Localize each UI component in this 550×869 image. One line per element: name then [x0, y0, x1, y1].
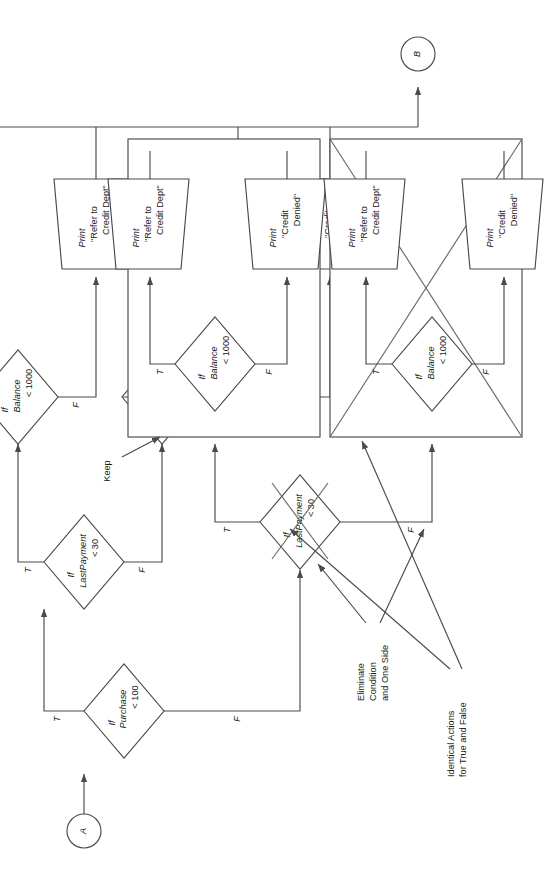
- decision-lastpayment-top-line3: < 30: [90, 539, 100, 557]
- process-denied-2-line2: "Credit: [280, 210, 290, 238]
- decision-lastpayment-top-line1: If: [66, 571, 76, 578]
- edge-bal-t1-false: [58, 277, 96, 397]
- process-refer-3-line1: Print: [347, 228, 357, 247]
- connector-a-label: A: [78, 828, 88, 835]
- edge-lp-top-false: [124, 444, 162, 562]
- rotated-artboard: A If Purchase < 100 T F If LastPayment <…: [0, 0, 550, 869]
- annotation-identical-line1: Identical Actions: [446, 710, 456, 777]
- process-refer-3: Print "Refer to Credit Dept": [324, 179, 405, 269]
- decision-balance-t1-line2: Balance: [12, 379, 22, 412]
- process-refer-1-line2: "Refer to: [89, 206, 99, 242]
- flowchart-svg: A If Purchase < 100 T F If LastPayment <…: [0, 0, 550, 869]
- label-bal-b2-true: T: [371, 368, 381, 375]
- connector-b: B: [401, 37, 435, 71]
- decision-balance-b2-line1: If: [414, 373, 424, 380]
- edge-lp-bottom-true: [215, 444, 260, 522]
- process-refer-3-line3: Credit Dept": [371, 185, 381, 235]
- label-lp-bottom-false: F: [406, 527, 416, 533]
- process-denied-2-line1: Print: [268, 228, 278, 247]
- edge-purchase-false: [164, 570, 300, 711]
- decision-purchase: If Purchase < 100: [84, 664, 164, 758]
- label-bal-b1-true: T: [155, 368, 165, 375]
- decision-balance-b2-line3: < 1000: [438, 336, 448, 364]
- edge-lp-top-true: [18, 444, 44, 562]
- annotation-identical-line2: for True and False: [458, 702, 468, 777]
- process-refer-2-line1: Print: [131, 228, 141, 247]
- connector-a: A: [67, 814, 101, 848]
- annotation-keep: Keep: [102, 437, 160, 482]
- label-purchase-false: F: [232, 716, 242, 722]
- decision-balance-b2-line2: Balance: [426, 346, 436, 379]
- annotation-eliminate-line3: and One Side: [380, 645, 390, 701]
- annotation-eliminate-line2: Condition: [368, 662, 378, 701]
- label-bal-b2-false: F: [481, 369, 491, 375]
- label-lp-bottom-true: T: [222, 526, 232, 533]
- process-denied-3-line2: "Credit: [497, 210, 507, 238]
- decision-purchase-line2: Purchase: [118, 690, 128, 729]
- decision-balance-t1-line1: If: [0, 406, 10, 413]
- decision-balance-b1-line3: < 1000: [221, 336, 231, 364]
- decision-balance-b1-line1: If: [197, 373, 207, 380]
- diagram-canvas: A If Purchase < 100 T F If LastPayment <…: [0, 0, 550, 869]
- decision-lastpayment-bottom: If LastPayment < 30: [260, 475, 340, 569]
- process-refer-2-line2: "Refer to: [143, 206, 153, 242]
- annotation-eliminate: Eliminate Condition and One Side: [318, 529, 424, 701]
- label-lp-top-true: T: [23, 566, 33, 573]
- process-refer-1-line1: Print: [77, 228, 87, 247]
- edge-lp-bottom-false: [340, 444, 432, 522]
- process-refer-3-line2: "Refer to: [359, 206, 369, 242]
- annotation-keep-label: Keep: [102, 460, 112, 481]
- decision-balance-t1: If Balance < 1000: [0, 350, 58, 444]
- process-refer-2: Print "Refer to Credit Dept": [108, 179, 189, 269]
- process-refer-2-line3: Credit Dept": [155, 185, 165, 235]
- process-denied-3: Print "Credit Denied": [462, 179, 543, 269]
- label-lp-top-false: F: [137, 567, 147, 573]
- process-denied-3-line1: Print: [485, 228, 495, 247]
- annotation-eliminate-line1: Eliminate: [356, 663, 366, 701]
- edge-purchase-true: [44, 609, 84, 711]
- label-purchase-true: T: [52, 715, 62, 722]
- decision-purchase-line3: < 100: [130, 685, 140, 708]
- connector-b-label: B: [412, 51, 422, 57]
- process-denied-2-line3: Denied": [292, 194, 302, 226]
- process-denied-3-line3: Denied": [509, 194, 519, 226]
- decision-balance-t1-line3: < 1000: [24, 369, 34, 397]
- decision-balance-b1-line2: Balance: [209, 346, 219, 379]
- decision-lastpayment-top-line2: LastPayment: [78, 534, 88, 588]
- decision-lastpayment-bottom-line1: If: [282, 531, 292, 538]
- label-bal-b1-false: F: [264, 369, 274, 375]
- process-denied-2: Print "Credit Denied": [245, 179, 326, 269]
- annotation-identical-actions: Identical Actions for True and False: [290, 441, 468, 777]
- decision-lastpayment-top: If LastPayment < 30: [44, 515, 124, 609]
- label-bal-t1-false: F: [71, 402, 81, 408]
- decision-purchase-line1: If: [107, 719, 117, 726]
